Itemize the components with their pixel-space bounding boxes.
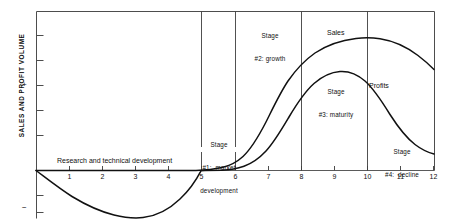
stage-1-line-3: development — [186, 187, 252, 195]
stage-3-line-1: Stage — [304, 88, 368, 96]
x-tick-label-2: 2 — [95, 173, 111, 180]
stage-3-line-2: #3: maturity — [304, 111, 368, 119]
y-axis-ticks — [37, 36, 44, 213]
stage-4-line-1: Stage — [370, 148, 434, 156]
y-axis-negative-sign: − — [22, 203, 27, 212]
stage-2-line-2: #2: growth — [239, 55, 301, 63]
stage-1-line-2: #1: market — [186, 164, 252, 172]
y-axis-positive-sign: + — [22, 80, 27, 89]
research-phase-label: Research and technical development — [57, 157, 172, 164]
x-tick-label-1: 1 — [62, 173, 78, 180]
x-tick-label-4: 4 — [161, 173, 177, 180]
stage-1-line-1: Stage — [186, 141, 252, 149]
stage-4-annotation: Stage #4: decline — [370, 133, 434, 194]
profits-curve-label: Profits — [369, 82, 389, 89]
x-tick-label-8: 8 — [294, 173, 310, 180]
sales-curve-label: Sales — [327, 29, 345, 36]
product-life-cycle-chart: SALES AND PROFIT VOLUME + − 1 2 3 4 5 6 … — [0, 0, 451, 224]
stage-4-line-2: #4: decline — [370, 171, 434, 179]
x-tick-label-3: 3 — [128, 173, 144, 180]
x-tick-label-9: 9 — [327, 173, 343, 180]
stage-2-annotation: Stage #2: growth — [239, 17, 301, 78]
stage-1-annotation: Stage #1: market development — [186, 126, 252, 210]
x-tick-label-7: 7 — [261, 173, 277, 180]
stage-3-annotation: Stage #3: maturity — [304, 73, 368, 134]
stage-2-line-1: Stage — [239, 32, 301, 40]
